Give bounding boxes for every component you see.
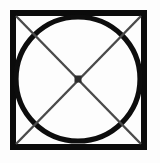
geometric-figure-canvas: [0, 0, 160, 163]
center-point-marker: [75, 76, 82, 83]
figure-svg: [0, 0, 160, 163]
